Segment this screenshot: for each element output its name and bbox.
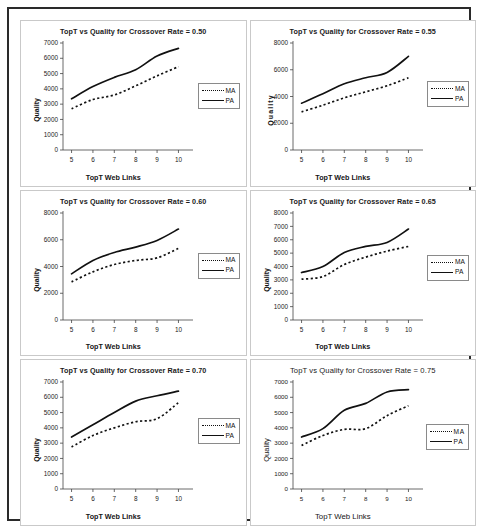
chart-panel-1: TopT vs Quality for Crossover Rate = 0.5…	[250, 20, 477, 187]
legend-label-pa: PA	[455, 269, 463, 276]
svg-text:7000: 7000	[274, 379, 288, 386]
svg-text:9: 9	[385, 156, 389, 163]
figure-page: TopT vs Quality for Crossover Rate = 0.5…	[0, 0, 478, 528]
svg-text:6: 6	[321, 326, 325, 333]
svg-text:4000: 4000	[273, 262, 288, 269]
plot-svg-4: 010002000300040005000600070005678910	[21, 374, 247, 526]
legend-row-ma: MA	[202, 256, 236, 266]
svg-text:6000: 6000	[44, 394, 59, 401]
svg-text:10: 10	[404, 156, 412, 163]
x-axis-label: TopT Web Links	[267, 342, 420, 351]
svg-text:7: 7	[342, 326, 346, 333]
legend-row-pa: PA	[431, 94, 465, 104]
svg-text:8000: 8000	[273, 209, 288, 216]
svg-text:2000: 2000	[44, 116, 59, 123]
svg-text:9: 9	[385, 495, 389, 502]
legend-swatch-pa-icon	[202, 269, 224, 273]
svg-text:3000: 3000	[44, 440, 59, 447]
legend-swatch-ma-icon	[430, 430, 452, 434]
svg-text:6000: 6000	[273, 236, 288, 243]
legend-label-pa: PA	[455, 96, 463, 103]
legend: MA PA	[426, 424, 470, 450]
series-line-pa	[301, 229, 408, 272]
svg-text:6: 6	[91, 156, 95, 163]
svg-text:5: 5	[70, 326, 74, 333]
svg-text:1000: 1000	[44, 131, 59, 138]
legend: MA PA	[198, 83, 240, 109]
svg-text:7: 7	[342, 156, 346, 163]
svg-text:4000: 4000	[44, 262, 59, 269]
svg-text:8000: 8000	[44, 209, 59, 216]
plot-svg-1: 020004000600080005678910	[251, 35, 477, 187]
svg-text:4000: 4000	[273, 93, 288, 100]
svg-text:6: 6	[91, 495, 95, 502]
legend-swatch-ma-icon	[202, 259, 224, 263]
x-axis-label: TopT Web Links	[37, 342, 190, 351]
svg-text:0: 0	[284, 486, 288, 493]
legend-label-ma: MA	[226, 88, 236, 95]
series-line-pa	[72, 391, 179, 437]
svg-text:5000: 5000	[274, 409, 288, 416]
svg-text:6000: 6000	[44, 54, 59, 61]
svg-text:10: 10	[175, 495, 183, 502]
svg-text:6: 6	[321, 495, 325, 502]
svg-text:6000: 6000	[44, 236, 59, 243]
svg-text:6000: 6000	[274, 394, 288, 401]
svg-text:5: 5	[299, 156, 303, 163]
svg-text:7: 7	[113, 156, 117, 163]
svg-text:8: 8	[363, 495, 367, 502]
svg-text:10: 10	[404, 326, 412, 333]
plot-area-wrapper: Quality 01000200030004000500060007000567…	[21, 35, 246, 186]
svg-text:2000: 2000	[274, 455, 288, 462]
legend-swatch-pa-icon	[202, 99, 224, 103]
svg-text:7000: 7000	[273, 222, 288, 229]
chart-panel-4: TopT vs Quality for Crossover Rate = 0.7…	[20, 359, 247, 526]
legend-label-pa: PA	[226, 433, 234, 440]
x-axis-label: TopT Web Links	[37, 512, 190, 521]
legend-row-ma: MA	[430, 427, 466, 437]
svg-text:4000: 4000	[44, 424, 59, 431]
svg-text:0: 0	[284, 316, 288, 323]
series-line-ma	[301, 406, 408, 446]
chart-panel-3: TopT vs Quality for Crossover Rate = 0.6…	[250, 190, 477, 357]
legend-row-ma: MA	[431, 84, 465, 94]
svg-text:2000: 2000	[273, 119, 288, 126]
x-axis-label: TopT Web Links	[267, 512, 420, 521]
svg-text:8: 8	[363, 156, 367, 163]
legend-label-pa: PA	[454, 439, 464, 446]
legend-label-pa: PA	[226, 267, 234, 274]
legend-label-ma: MA	[455, 86, 465, 93]
svg-text:9: 9	[155, 326, 159, 333]
svg-text:7: 7	[342, 495, 346, 502]
svg-text:4000: 4000	[44, 85, 59, 92]
svg-text:0: 0	[284, 146, 288, 153]
svg-text:8: 8	[134, 495, 138, 502]
series-line-pa	[301, 56, 408, 103]
svg-text:7: 7	[113, 326, 117, 333]
plot-area-wrapper: Quality 01000200030004000500060007000567…	[21, 374, 246, 525]
legend-row-pa: PA	[431, 268, 465, 278]
chart-panel-5: TopT vs Quality for Crossover Rate = 0.7…	[250, 359, 477, 526]
legend-row-pa: PA	[202, 266, 236, 276]
svg-text:3000: 3000	[44, 100, 59, 107]
legend-label-ma: MA	[226, 257, 236, 264]
series-line-pa	[72, 229, 179, 274]
svg-text:8: 8	[134, 326, 138, 333]
svg-text:8: 8	[363, 326, 367, 333]
x-axis-label: TopT Web Links	[37, 173, 190, 182]
svg-text:5000: 5000	[44, 409, 59, 416]
legend-swatch-pa-icon	[431, 271, 453, 275]
svg-text:2000: 2000	[44, 455, 59, 462]
svg-text:3000: 3000	[273, 276, 288, 283]
svg-text:1000: 1000	[273, 302, 288, 309]
legend-swatch-ma-icon	[202, 89, 224, 93]
series-line-ma	[72, 403, 179, 447]
svg-text:4000: 4000	[274, 424, 288, 431]
plot-area-wrapper: Quality 01000200030004000500060007000567…	[251, 374, 476, 525]
legend-row-pa: PA	[202, 96, 236, 106]
legend-swatch-ma-icon	[431, 87, 453, 91]
plot-area-wrapper: Quality 020004000600080005678910 MA PA	[251, 35, 476, 186]
svg-text:1000: 1000	[44, 470, 59, 477]
svg-text:5: 5	[299, 326, 303, 333]
svg-text:7000: 7000	[44, 379, 59, 386]
